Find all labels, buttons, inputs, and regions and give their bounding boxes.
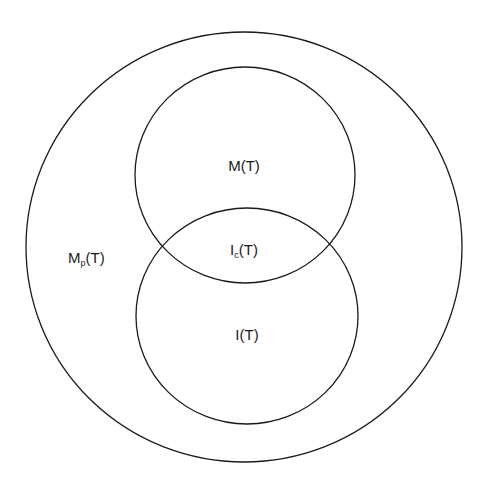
venn-diagram: Mp(T) M(T) Ic(T) I(T) [0, 0, 485, 478]
intersection-label: Ic(T) [230, 241, 258, 260]
upper-set-label: M(T) [228, 157, 260, 174]
outer-set-label: Mp(T) [68, 249, 105, 268]
lower-set-label: I(T) [235, 326, 258, 343]
